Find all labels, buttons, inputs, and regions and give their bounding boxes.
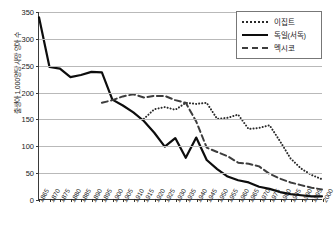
y-tick-label: 200 <box>8 88 34 97</box>
gridline <box>39 66 322 67</box>
legend-item-germany: 독일(서독) <box>241 28 317 41</box>
gridline <box>39 119 322 120</box>
y-axis-tick-labels: 050100150200250300350 <box>6 0 34 230</box>
legend-item-egypt: 이집트 <box>241 15 317 28</box>
y-tick-label: 300 <box>8 34 34 43</box>
gridline <box>39 173 322 174</box>
y-tick-mark <box>36 93 39 94</box>
chart-legend: 이집트 독일(서독) 멕시코 <box>236 11 322 59</box>
legend-label-germany: 독일(서독) <box>274 29 306 40</box>
dashed-line-key-icon <box>241 43 269 53</box>
y-tick-label: 50 <box>8 169 34 178</box>
y-tick-label: 250 <box>8 61 34 70</box>
y-tick-label: 150 <box>8 115 34 124</box>
legend-item-mexico: 멕시코 <box>241 41 317 54</box>
dotted-line-key-icon <box>241 17 269 27</box>
gridline <box>39 146 322 147</box>
x-axis-tick-labels: 1865187018751880188518901895190019051910… <box>38 200 322 230</box>
y-tick-mark <box>36 66 39 67</box>
y-tick-mark <box>36 12 39 13</box>
y-tick-label: 0 <box>8 196 34 205</box>
y-tick-label: 350 <box>8 8 34 17</box>
y-tick-mark <box>36 173 39 174</box>
gridline <box>39 93 322 94</box>
y-tick-label: 100 <box>8 142 34 151</box>
y-tick-mark <box>36 146 39 147</box>
y-tick-mark <box>36 39 39 40</box>
series-line-dashed <box>102 94 322 189</box>
y-tick-mark <box>36 119 39 120</box>
legend-label-mexico: 멕시코 <box>274 42 294 53</box>
solid-line-key-icon <box>241 30 269 40</box>
legend-label-egypt: 이집트 <box>274 16 294 27</box>
